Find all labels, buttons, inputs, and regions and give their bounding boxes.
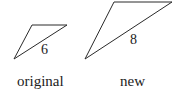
new-caption: new: [120, 73, 145, 89]
new-triangle-group: 8 new: [85, 2, 172, 89]
new-triangle: [85, 2, 172, 59]
new-side-label: 8: [130, 32, 137, 47]
similar-triangles-diagram: 6 original 8 new: [0, 0, 181, 96]
original-caption: original: [17, 73, 64, 89]
original-triangle-group: 6 original: [14, 25, 67, 89]
original-side-label: 6: [41, 42, 48, 57]
